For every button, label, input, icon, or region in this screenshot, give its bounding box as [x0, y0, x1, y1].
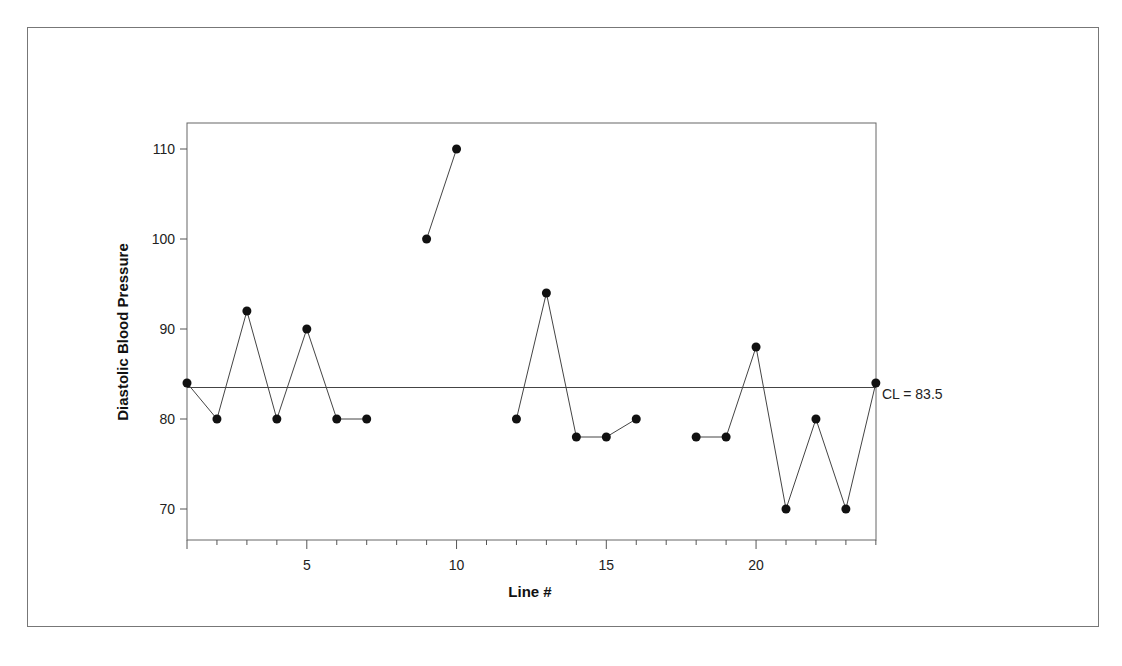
x-tick-label: 15 [599, 557, 615, 573]
plot-area [187, 123, 876, 540]
y-axis-title: Diastolic Blood Pressure [114, 243, 131, 421]
data-series [183, 145, 881, 514]
data-point [452, 145, 461, 154]
data-point [722, 433, 731, 442]
series-line [516, 293, 636, 437]
series-line [696, 347, 876, 509]
data-point [542, 289, 551, 298]
series-line [427, 149, 457, 239]
data-point [841, 505, 850, 514]
x-axis: 5101520 [187, 540, 876, 573]
data-point [811, 415, 820, 424]
y-tick-label: 110 [153, 141, 176, 157]
x-tick-label: 20 [748, 557, 764, 573]
data-point [752, 343, 761, 352]
data-point [242, 307, 251, 316]
y-tick-label: 90 [159, 321, 175, 337]
data-point [272, 415, 281, 424]
data-point [212, 415, 221, 424]
data-point [422, 235, 431, 244]
data-point [632, 415, 641, 424]
data-point [782, 505, 791, 514]
data-point [572, 433, 581, 442]
control-chart: 708090100110 5101520 CL = 83.5 Line # Di… [0, 0, 1122, 666]
data-point [302, 325, 311, 334]
y-tick-label: 70 [159, 501, 175, 517]
data-point [183, 379, 192, 388]
data-point [362, 415, 371, 424]
series-line [187, 311, 367, 419]
data-point [692, 433, 701, 442]
x-tick-label: 5 [303, 557, 311, 573]
data-point [512, 415, 521, 424]
y-axis: 708090100110 [152, 141, 187, 517]
y-tick-label: 80 [159, 411, 175, 427]
y-tick-label: 100 [152, 231, 176, 247]
data-point [332, 415, 341, 424]
data-point [871, 379, 880, 388]
x-tick-label: 10 [449, 557, 465, 573]
x-axis-title: Line # [508, 583, 552, 600]
center-line-label: CL = 83.5 [882, 386, 943, 402]
data-point [602, 433, 611, 442]
